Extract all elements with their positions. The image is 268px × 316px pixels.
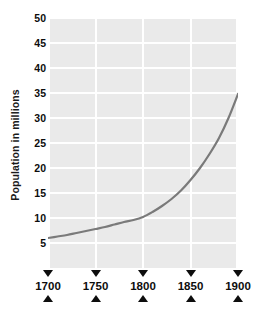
x-tick-label: 1850 <box>178 281 204 293</box>
x-tick-marker-down-icon <box>186 270 196 277</box>
series-path <box>48 94 238 238</box>
x-tick-label: 1900 <box>225 281 251 293</box>
x-tick-marker-up-icon <box>91 295 101 302</box>
plot-area <box>48 18 238 268</box>
y-tick-label: 50 <box>24 13 46 24</box>
y-tick-label: 40 <box>24 63 46 74</box>
x-tick-marker-up-icon <box>138 295 148 302</box>
x-tick-marker-down-icon <box>233 270 243 277</box>
y-tick-label: 30 <box>24 113 46 124</box>
y-axis-title-label: Population in millions <box>9 89 21 200</box>
x-tick-label: 1750 <box>83 281 109 293</box>
y-axis-tick-labels: 5101520253035404550 <box>22 0 46 316</box>
population-line-chart: Population in millions 51015202530354045… <box>0 0 268 316</box>
y-tick-label: 5 <box>24 238 46 249</box>
y-tick-label: 35 <box>24 88 46 99</box>
x-tick-marker-up-icon <box>233 295 243 302</box>
y-tick-label: 15 <box>24 188 46 199</box>
x-tick-marker-down-icon <box>138 270 148 277</box>
y-tick-label: 10 <box>24 213 46 224</box>
y-tick-label: 20 <box>24 163 46 174</box>
x-tick-label: 1800 <box>130 281 156 293</box>
y-tick-label: 25 <box>24 138 46 149</box>
x-tick-marker-up-icon <box>186 295 196 302</box>
y-tick-label: 45 <box>24 38 46 49</box>
x-tick-marker-down-icon <box>91 270 101 277</box>
population-series-line <box>48 18 238 268</box>
